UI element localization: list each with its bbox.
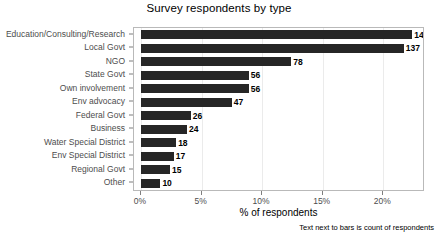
bar-value-label: 26 bbox=[191, 111, 202, 121]
category-axis: Education/Consulting/ResearchLocal GovtN… bbox=[0, 27, 133, 191]
bar bbox=[141, 138, 176, 147]
category-label: Education/Consulting/Research bbox=[6, 29, 125, 39]
bar-value-label: 10 bbox=[160, 178, 171, 188]
x-axis-tick-label: 20% bbox=[374, 196, 391, 206]
category-tick bbox=[129, 114, 133, 115]
bar-value-label: 141 bbox=[412, 30, 424, 40]
bar bbox=[141, 125, 187, 134]
bar bbox=[141, 111, 191, 120]
category-label: NGO bbox=[106, 56, 125, 66]
category-label: Federal Govt bbox=[76, 110, 125, 120]
bar-row: 15 bbox=[134, 165, 423, 174]
bar-row: 56 bbox=[134, 84, 423, 93]
category-tick bbox=[129, 155, 133, 156]
bar-value-label: 137 bbox=[404, 43, 420, 53]
category-tick bbox=[129, 168, 133, 169]
x-axis-tick bbox=[322, 191, 323, 195]
bar-value-label: 17 bbox=[174, 151, 185, 161]
bar-row: 47 bbox=[134, 98, 423, 107]
category-label: Other bbox=[104, 177, 125, 187]
bar-row: 18 bbox=[134, 138, 423, 147]
bar-value-label: 47 bbox=[232, 97, 243, 107]
bar-row: 141 bbox=[134, 30, 423, 39]
x-axis-title: % of respondents bbox=[133, 207, 424, 218]
bar bbox=[141, 179, 160, 188]
bar bbox=[141, 30, 412, 39]
x-axis-tick-label: 5% bbox=[194, 196, 206, 206]
bar-row: 78 bbox=[134, 57, 423, 66]
category-label: Water Special District bbox=[44, 137, 125, 147]
category-tick bbox=[129, 87, 133, 88]
x-axis-tick-label: 10% bbox=[253, 196, 270, 206]
category-label: Local Govt bbox=[84, 42, 125, 52]
category-label: Own involvement bbox=[60, 83, 125, 93]
category-tick bbox=[129, 33, 133, 34]
bar bbox=[141, 152, 174, 161]
chart-title: Survey respondents by type bbox=[0, 2, 438, 14]
bar-row: 24 bbox=[134, 125, 423, 134]
category-tick bbox=[129, 128, 133, 129]
bar bbox=[141, 44, 404, 53]
bar-value-label: 56 bbox=[249, 84, 260, 94]
bar-value-label: 24 bbox=[187, 124, 198, 134]
category-label: Regional Govt bbox=[71, 164, 125, 174]
category-tick bbox=[129, 101, 133, 102]
chart-caption: Text next to bars is count of respondent… bbox=[299, 223, 434, 232]
bar-row: 10 bbox=[134, 179, 423, 188]
x-axis-tick bbox=[382, 191, 383, 195]
bar bbox=[141, 98, 232, 107]
bars-layer: 14113778565647262418171510 bbox=[134, 28, 423, 190]
category-label: Business bbox=[91, 123, 126, 133]
x-axis-tick-label: 15% bbox=[313, 196, 330, 206]
category-tick bbox=[129, 141, 133, 142]
bar-value-label: 15 bbox=[170, 165, 181, 175]
bar-value-label: 18 bbox=[176, 138, 187, 148]
bar-row: 137 bbox=[134, 44, 423, 53]
category-tick bbox=[129, 182, 133, 183]
x-axis-tick bbox=[140, 191, 141, 195]
bar-chart: Survey respondents by type 1411377856564… bbox=[0, 0, 438, 237]
category-label: Env advocacy bbox=[72, 96, 125, 106]
bar bbox=[141, 71, 249, 80]
bar bbox=[141, 57, 291, 66]
plot-panel: 14113778565647262418171510 bbox=[133, 27, 424, 191]
category-tick bbox=[129, 60, 133, 61]
category-tick bbox=[129, 47, 133, 48]
x-axis-tick bbox=[201, 191, 202, 195]
category-label: State Govt bbox=[85, 69, 125, 79]
bar bbox=[141, 165, 170, 174]
category-label: Env Special District bbox=[52, 150, 125, 160]
bar-row: 26 bbox=[134, 111, 423, 120]
bar-row: 17 bbox=[134, 152, 423, 161]
x-axis-tick-label: 0% bbox=[134, 196, 146, 206]
bar bbox=[141, 84, 249, 93]
bar-value-label: 78 bbox=[291, 57, 302, 67]
bar-row: 56 bbox=[134, 71, 423, 80]
category-tick bbox=[129, 74, 133, 75]
x-axis-tick bbox=[261, 191, 262, 195]
bar-value-label: 56 bbox=[249, 70, 260, 80]
